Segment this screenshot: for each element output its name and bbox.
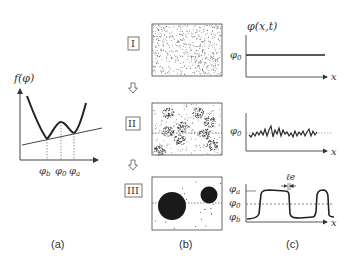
caption-b: (b) — [179, 238, 192, 250]
droplet-profile — [247, 190, 334, 219]
tick-phi-a: φa — [69, 165, 80, 178]
common-tangent-line — [22, 128, 102, 145]
down-arrow-icon — [129, 160, 138, 170]
small-droplet — [201, 187, 218, 204]
level-phi0-1: φ0 — [230, 49, 242, 62]
profile-axis-label: φ(x,t) — [247, 20, 277, 33]
phase-separation-diagram: f(φ) φb φ0 φa (a) I II III — [0, 0, 363, 264]
stage-label-3: III — [127, 185, 139, 196]
level-phi-b: φb — [229, 211, 241, 224]
interface-width-label: ℓe — [286, 172, 295, 182]
level-phi0-2: φ0 — [230, 125, 242, 138]
fluctuating-profile — [249, 126, 317, 137]
panel-c-profiles: φ(x,t) φ0 x φ0 x ℓe φa φ0 φb x (c) — [229, 20, 337, 250]
x-label-2: x — [331, 146, 337, 157]
stage-label-1: I — [131, 38, 135, 49]
double-well-curve — [27, 96, 86, 139]
level-phi-0: φ0 — [229, 197, 241, 210]
stage-label-2: II — [128, 118, 136, 129]
x-label-1: x — [331, 71, 337, 82]
level-phi-a: φa — [229, 183, 240, 196]
caption-c: (c) — [286, 238, 299, 250]
down-arrow-icon — [129, 83, 138, 93]
large-droplet — [158, 192, 186, 220]
tick-phi-0: φ0 — [55, 165, 67, 178]
x-label-3: x — [331, 217, 337, 228]
caption-a: (a) — [51, 238, 64, 250]
panel-a-free-energy: f(φ) φb φ0 φa (a) — [13, 72, 102, 250]
tick-phi-b: φb — [39, 165, 51, 178]
free-energy-axis-label: f(φ) — [13, 72, 34, 85]
